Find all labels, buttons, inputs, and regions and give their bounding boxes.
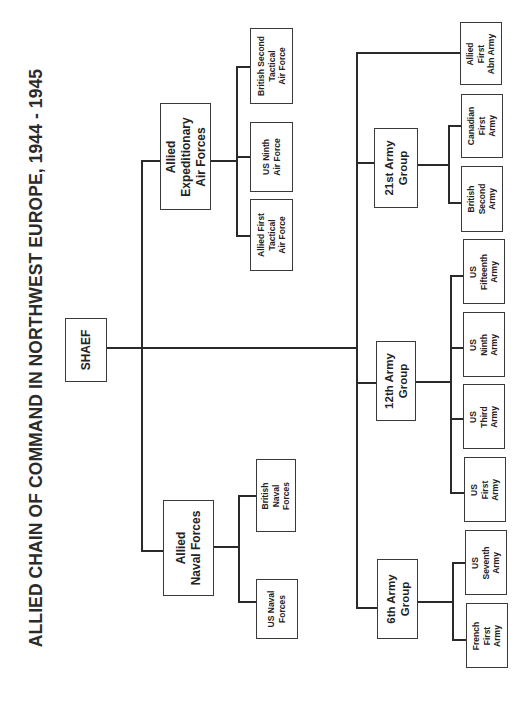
org-chart: ALLIED CHAIN OF COMMAND IN NORTHWEST EUR… [0,0,531,702]
node-label: US Naval Forces [266,591,287,628]
node-label: 21st Army Group [382,140,411,195]
connector-12th-child-2 [450,418,464,420]
connector-6th-child-1 [452,639,466,641]
connector-21st-child-1 [448,202,462,204]
connector-naval-children-trunk [238,495,240,602]
node-label: British Second Tactical Air Force [256,36,288,96]
node-us-naval-forces: US Naval Forces [256,579,298,639]
node-us-ninth-army: US Ninth Army [463,312,505,377]
node-label: US Ninth Air Force [261,138,282,175]
node-label: US Seventh Army [470,546,502,579]
node-shaef: SHAEF [65,318,107,382]
node-label: US Third Army [468,406,500,428]
node-label: British Naval Forces [260,482,292,510]
connector-air-naval-trunk [141,160,143,551]
node-us-fifteenth-army: US Fifteenth Army [463,239,505,304]
connector-6th-child-2 [452,562,466,564]
node-british-naval-forces: British Naval Forces [256,459,296,532]
connector-21st-children-trunk [448,125,450,203]
chart-title: ALLIED CHAIN OF COMMAND IN NORTHWEST EUR… [26,69,47,647]
node-us-ninth-air-force: US Ninth Air Force [250,122,293,192]
node-british-second-army: British Second Army [461,166,503,232]
connector-12th-out [416,381,451,383]
connector-to-air [141,160,161,162]
connector-6th-children-trunk [452,562,454,640]
node-label: 12th Army Group [382,353,411,409]
connector-shaef-to-army-trunk [106,347,358,349]
connector-air-out [210,160,237,162]
connector-12th-child-1 [450,492,464,494]
connector-to-6th [356,607,378,609]
connector-air-child-1 [236,235,251,237]
node-label: Allied Expeditionary Air Forces [163,117,208,196]
node-us-third-army: US Third Army [463,384,505,449]
node-label: Canadian First Army [466,107,498,145]
node-label: British Second Army [466,184,498,215]
node-12th-army-group: 12th Army Group [376,341,416,421]
connector-air-child-2 [236,156,251,158]
connector-to-21st [356,162,374,164]
node-6th-army-group: 6th Army Group [377,559,418,639]
node-label: US First Army [469,479,501,501]
connector-naval-child-2 [238,601,256,603]
node-allied-first-tactical-air-force: Allied First Tactical Air Force [250,199,293,271]
connector-21st-out [418,164,448,166]
connector-army-trunk [356,52,358,609]
connector-to-12th [356,382,377,384]
node-us-seventh-army: US Seventh Army [465,530,507,595]
node-21st-army-group: 21st Army Group [374,128,418,208]
connector-12th-child-4 [450,275,464,277]
node-label: US Fifteenth Army [468,254,500,290]
node-us-first-army: US First Army [464,457,506,522]
node-label: SHAEF [79,330,94,371]
node-label: Allied First Abn Army [465,33,497,73]
connector-naval-out [214,546,238,548]
connector-air-children-trunk [236,66,238,236]
node-allied-expeditionary-air-forces: Allied Expeditionary Air Forces [160,103,211,210]
node-british-second-tactical-air-force: British Second Tactical Air Force [250,28,293,104]
connector-naval-child-1 [238,495,256,497]
connector-12th-child-3 [450,347,464,349]
node-canadian-first-army: Canadian First Army [461,94,503,158]
node-label: French First Army [471,621,503,649]
node-allied-naval-forces: Allied Naval Forces [163,500,214,596]
connector-6th-out [418,601,453,603]
node-label: Allied Naval Forces [174,511,204,586]
connector-to-naval [141,550,164,552]
connector-air-child-3 [236,66,251,68]
connector-to-abn-army [356,52,461,54]
node-allied-first-abn-army: Allied First Abn Army [460,22,502,85]
node-french-first-army: French First Army [466,603,508,668]
connector-21st-child-2 [448,125,462,127]
node-label: US Ninth Army [468,334,500,356]
node-label: 6th Army Group [383,574,412,623]
connector-12th-children-trunk [450,275,452,493]
node-label: Allied First Tactical Air Force [256,213,288,257]
